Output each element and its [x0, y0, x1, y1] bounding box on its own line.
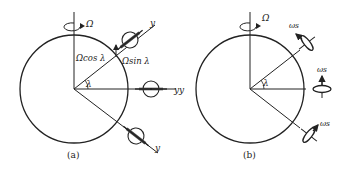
omega-cos-lambda-label: Ωcos λ	[75, 53, 105, 63]
omega-s-label-horizontal: ωs	[317, 65, 327, 74]
gyroscope-horizontal-icon	[135, 81, 167, 97]
omega-s-label-upper: ωs	[289, 21, 299, 30]
gyroscope-earth-diagram: Ω y y y λ Ωcos λ Ωsin λ	[0, 0, 351, 171]
y-label-upper: y	[149, 18, 156, 28]
y-label-b: y	[178, 85, 185, 95]
y-label-lower: y	[154, 143, 161, 153]
lower-diagonal-b	[250, 89, 300, 128]
omega-label-a: Ω	[85, 19, 94, 29]
lambda-label-a: λ	[85, 79, 92, 89]
gyroscope-lower-icon	[118, 120, 153, 152]
caption-a: (a)	[67, 150, 79, 160]
rotation-arrow-icon	[64, 23, 85, 31]
caption-b: (b)	[243, 150, 256, 160]
upper-diagonal-b	[250, 50, 300, 89]
rotation-arrow-icon	[240, 23, 261, 31]
rotor-lower-icon	[296, 122, 323, 148]
omega-label-b: Ω	[261, 13, 270, 23]
panel-a: Ω y y y λ Ωcos λ Ωsin λ	[20, 12, 180, 160]
omega-s-label-lower: ωs	[320, 119, 330, 128]
omega-sin-lambda-label: Ωsin λ	[121, 56, 150, 66]
panel-b: y Ω λ ωs ωs ωs	[178, 12, 331, 160]
lambda-label-b: λ	[262, 78, 269, 88]
gyroscope-upper-icon	[112, 24, 147, 56]
